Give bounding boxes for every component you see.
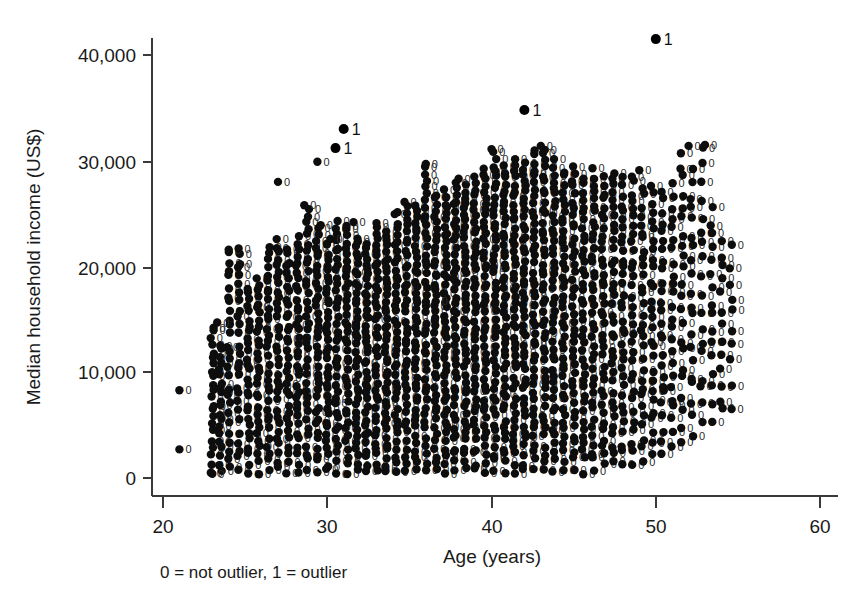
outlier-legend-caption: 0 = not outlier, 1 = outlier [160,563,347,582]
svg-text:0: 0 [679,177,685,189]
y-tick-label-40000: 40,000 [78,45,136,66]
svg-text:0: 0 [337,233,343,245]
svg-text:0: 0 [442,295,448,307]
outlier-point: 1 [651,31,673,48]
outlier-point: 1 [331,140,353,157]
svg-text:0: 0 [699,430,705,442]
svg-text:0: 0 [726,363,732,375]
svg-text:0: 0 [218,468,224,480]
data-point: 0 [175,384,191,396]
svg-text:0: 0 [560,153,566,165]
svg-text:0: 0 [547,140,553,152]
svg-text:0: 0 [323,156,329,168]
svg-text:0: 0 [738,325,744,337]
svg-text:1: 1 [344,140,353,157]
x-tick-group: 20 30 40 50 60 [152,496,830,537]
svg-text:0: 0 [738,239,744,251]
svg-text:0: 0 [360,216,366,228]
svg-text:0: 0 [711,139,717,151]
data-points-layer: 0000000000000000000000000000000000000000… [175,31,744,480]
x-tick-label-60: 60 [809,516,830,537]
svg-text:0: 0 [383,217,389,229]
svg-text:0: 0 [736,262,742,274]
svg-text:0: 0 [245,243,251,255]
data-point: 0 [274,176,290,188]
svg-text:0: 0 [645,164,651,176]
x-tick-label-40: 40 [481,516,502,537]
y-tick-label-10000: 10,000 [78,362,136,383]
svg-text:0: 0 [688,279,694,291]
x-tick-label-20: 20 [152,516,173,537]
svg-text:0: 0 [736,279,742,291]
svg-text:0: 0 [738,403,744,415]
svg-text:0: 0 [284,176,290,188]
svg-text:0: 0 [738,380,744,392]
svg-text:0: 0 [465,173,471,185]
svg-text:0: 0 [310,199,316,211]
y-tick-group: 40,000 30,000 20,000 10,000 0 [78,45,152,489]
svg-text:0: 0 [689,364,695,376]
svg-text:0: 0 [579,161,585,173]
svg-text:0: 0 [185,384,191,396]
svg-text:0: 0 [717,220,723,232]
svg-text:0: 0 [728,252,734,264]
y-axis-title: Median household income (US$) [23,129,44,406]
svg-text:0: 0 [738,294,744,306]
svg-text:0: 0 [677,381,683,393]
x-tick-label-30: 30 [316,516,337,537]
y-tick-label-20000: 20,000 [78,258,136,279]
svg-text:0: 0 [718,416,724,428]
svg-text:1: 1 [352,121,361,138]
svg-text:0: 0 [719,201,725,213]
svg-text:0: 0 [432,158,438,170]
y-tick-label-30000: 30,000 [78,152,136,173]
svg-text:0: 0 [223,317,229,329]
svg-text:0: 0 [283,233,289,245]
svg-text:0: 0 [709,157,715,169]
chart-canvas: 40,000 30,000 20,000 10,000 0 20 30 40 5… [0,0,860,601]
outlier-point: 1 [339,121,361,138]
data-point: 0 [313,156,329,168]
svg-text:0: 0 [695,140,701,152]
x-tick-label-50: 50 [645,516,666,537]
svg-text:0: 0 [498,143,504,155]
outlier-point: 1 [519,102,541,119]
x-axis-title: Age (years) [443,546,541,567]
svg-text:0: 0 [185,443,191,455]
y-tick-label-0: 0 [125,468,136,489]
svg-text:0: 0 [689,317,695,329]
svg-text:0: 0 [699,354,705,366]
data-point: 0 [175,443,191,455]
svg-text:0: 0 [707,176,713,188]
svg-text:0: 0 [738,338,744,350]
svg-text:1: 1 [664,31,673,48]
scatter-plot-figure: 40,000 30,000 20,000 10,000 0 20 30 40 5… [0,0,860,601]
svg-text:1: 1 [532,102,541,119]
svg-text:0: 0 [736,353,742,365]
svg-text:0: 0 [327,219,333,231]
svg-text:0: 0 [246,258,252,270]
